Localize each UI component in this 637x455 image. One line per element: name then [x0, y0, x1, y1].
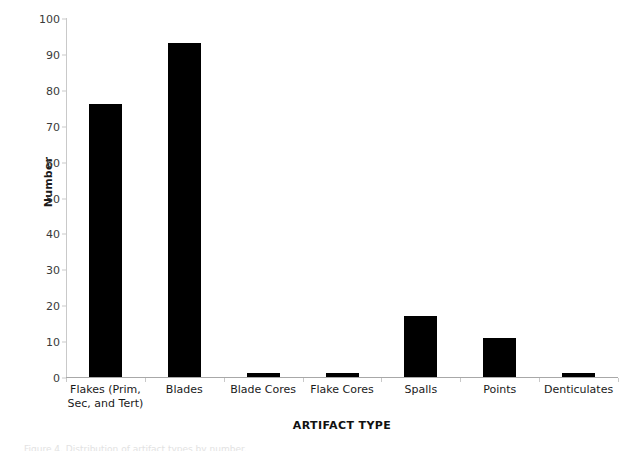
y-tick-mark: [62, 126, 66, 127]
bar: [483, 338, 516, 377]
bar: [247, 373, 280, 377]
x-tick-mark: [224, 378, 225, 382]
plot-area: 0102030405060708090100: [66, 19, 618, 378]
y-tick-label: 90: [46, 48, 60, 61]
bar: [404, 316, 437, 377]
y-tick-label: 40: [46, 228, 60, 241]
y-tick-mark: [62, 54, 66, 55]
y-tick-label: 80: [46, 84, 60, 97]
bar: [326, 373, 359, 377]
y-tick-label: 100: [39, 13, 60, 26]
x-axis-line: [66, 377, 618, 378]
x-axis-label-line: Spalls: [381, 383, 460, 397]
y-tick-mark: [62, 342, 66, 343]
y-tick-label: 20: [46, 300, 60, 313]
x-axis-label: Denticulates: [539, 383, 618, 397]
x-tick-mark: [66, 378, 67, 382]
x-tick-mark: [618, 378, 619, 382]
y-tick-label: 70: [46, 120, 60, 133]
x-tick-mark: [303, 378, 304, 382]
bar: [89, 104, 122, 377]
bar-chart-figure: Number 0102030405060708090100 Flakes (Pr…: [0, 0, 637, 455]
y-tick-label: 0: [53, 372, 60, 385]
x-axis-category-labels: Flakes (Prim,Sec, and Tert)BladesBlade C…: [66, 383, 618, 417]
x-axis-label-line: Flake Cores: [303, 383, 382, 397]
x-tick-mark: [539, 378, 540, 382]
x-axis-label: Points: [460, 383, 539, 397]
y-axis-line: [66, 18, 67, 378]
x-axis-label-line: Blade Cores: [224, 383, 303, 397]
x-axis-label: Blade Cores: [224, 383, 303, 397]
y-tick-mark: [62, 19, 66, 20]
y-tick-label: 50: [46, 192, 60, 205]
y-tick-label: 30: [46, 264, 60, 277]
figure-caption-sliver: Figure 4. Distribution of artifact types…: [24, 444, 354, 451]
bar: [168, 43, 201, 377]
y-axis-title: Number: [42, 137, 66, 227]
y-tick-mark: [62, 306, 66, 307]
bar: [562, 373, 595, 377]
x-axis-label-line: Sec, and Tert): [66, 397, 145, 411]
x-axis-title: ARTIFACT TYPE: [66, 419, 618, 432]
x-axis-label: Flakes (Prim,Sec, and Tert): [66, 383, 145, 411]
x-axis-label: Flake Cores: [303, 383, 382, 397]
x-tick-mark: [460, 378, 461, 382]
x-tick-mark: [145, 378, 146, 382]
y-tick-mark: [62, 270, 66, 271]
x-tick-mark: [381, 378, 382, 382]
y-tick-label: 60: [46, 156, 60, 169]
x-axis-label-line: Points: [460, 383, 539, 397]
x-axis-label: Blades: [145, 383, 224, 397]
x-axis-label-line: Blades: [145, 383, 224, 397]
y-tick-mark: [62, 90, 66, 91]
y-tick-mark: [62, 198, 66, 199]
x-axis-label-line: Flakes (Prim,: [66, 383, 145, 397]
y-tick-label: 10: [46, 336, 60, 349]
x-axis-label: Spalls: [381, 383, 460, 397]
y-tick-mark: [62, 162, 66, 163]
y-tick-mark: [62, 234, 66, 235]
x-axis-label-line: Denticulates: [539, 383, 618, 397]
